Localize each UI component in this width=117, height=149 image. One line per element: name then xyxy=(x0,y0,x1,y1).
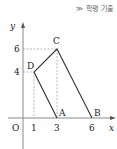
tick-y-4: 4 xyxy=(14,67,20,77)
point-a-label: A xyxy=(58,108,66,118)
x-axis-arrow-icon xyxy=(110,116,116,120)
tick-y-6: 6 xyxy=(14,44,20,54)
tick-x-3: 3 xyxy=(54,123,60,133)
tick-x-6: 6 xyxy=(89,123,95,133)
point-c-label: C xyxy=(53,36,60,46)
y-axis-label: y xyxy=(9,21,16,31)
x-axis-label: x xyxy=(109,123,114,133)
point-b-label: B xyxy=(94,108,101,118)
y-axis-arrow-icon xyxy=(21,22,25,28)
point-d-label: D xyxy=(27,61,34,71)
origin-label: O xyxy=(12,123,19,133)
tick-x-1: 1 xyxy=(31,123,37,133)
coordinate-diagram: y x O 1 3 6 6 4 C D A B xyxy=(0,0,117,149)
